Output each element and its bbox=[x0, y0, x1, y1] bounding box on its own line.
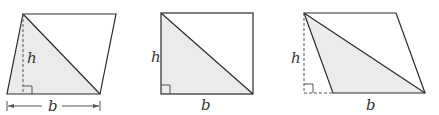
base-label: b bbox=[201, 96, 211, 114]
right-angle-mark bbox=[304, 84, 313, 93]
figure-2-rectangle: h b bbox=[151, 13, 253, 114]
triangle-area-diagram: h b h b h b bbox=[0, 0, 439, 115]
base-label: b bbox=[48, 97, 58, 115]
arrowhead-left-icon bbox=[8, 104, 14, 108]
height-label: h bbox=[27, 49, 37, 67]
base-label: b bbox=[366, 96, 376, 114]
height-label: h bbox=[291, 49, 301, 67]
figure-3-parallelogram: h b bbox=[291, 13, 425, 114]
arrowhead-right-icon bbox=[93, 104, 99, 108]
figure-1-parallelogram: h b bbox=[7, 14, 116, 115]
height-label: h bbox=[151, 48, 161, 66]
